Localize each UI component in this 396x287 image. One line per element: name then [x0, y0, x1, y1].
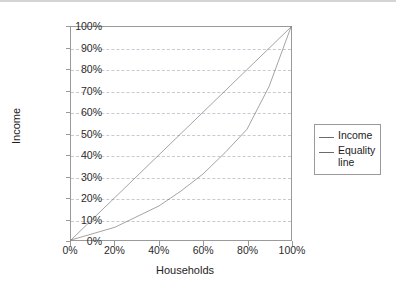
- x-tick-mark: [159, 241, 160, 246]
- x-tick-mark: [292, 241, 293, 246]
- y-tick-mark: [66, 220, 70, 221]
- legend-item[interactable]: Equality line: [319, 144, 375, 168]
- legend-item-label: Income: [338, 129, 372, 141]
- y-tick-mark: [66, 91, 70, 92]
- x-tick-mark: [203, 241, 204, 246]
- y-tick-mark: [66, 26, 70, 27]
- plot-frame: [70, 26, 292, 241]
- y-tick-mark: [66, 177, 70, 178]
- x-tick-label: 0%: [48, 245, 92, 256]
- x-tick-label: 20%: [92, 245, 136, 256]
- legend-line-swatch: [319, 133, 334, 143]
- y-axis-title: Income: [10, 86, 22, 166]
- legend-item-label: Equality line: [338, 144, 375, 168]
- y-tick-mark: [66, 134, 70, 135]
- x-axis-title: Households: [110, 264, 260, 276]
- y-tick-mark: [66, 69, 70, 70]
- series-layer: [71, 27, 291, 240]
- x-tick-label: 40%: [137, 245, 181, 256]
- x-tick-mark: [248, 241, 249, 246]
- y-tick-mark: [66, 48, 70, 49]
- y-tick-mark: [66, 112, 70, 113]
- x-tick-label: 100%: [270, 245, 314, 256]
- chart-page: 0%10%20%30%40%50%60%70%80%90%100% 0%20%4…: [0, 0, 396, 287]
- x-tick-mark: [70, 241, 71, 246]
- legend-line-swatch: [319, 148, 334, 158]
- plot-area: [71, 27, 291, 240]
- x-tick-label: 80%: [226, 245, 270, 256]
- y-tick-mark: [66, 198, 70, 199]
- x-tick-mark: [114, 241, 115, 246]
- chart-legend: IncomeEquality line: [314, 124, 381, 175]
- y-tick-mark: [66, 155, 70, 156]
- series-line-equality-line: [71, 27, 291, 240]
- x-tick-label: 60%: [181, 245, 225, 256]
- legend-item[interactable]: Income: [319, 129, 375, 143]
